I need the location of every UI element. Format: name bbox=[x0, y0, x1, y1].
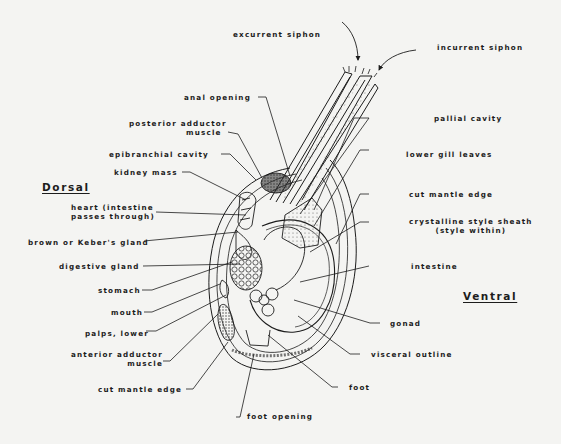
label-crystalline-style-sheath: crystalline style sheath (style within) bbox=[409, 217, 533, 235]
anterior-adductor-muscle bbox=[218, 304, 234, 340]
label-palps-lower: palps, lower bbox=[85, 329, 149, 338]
label-incurrent-siphon: incurrent siphon bbox=[437, 43, 523, 52]
label-lower-gill-leaves: lower gill leaves bbox=[406, 150, 492, 159]
label-intestine: intestine bbox=[411, 262, 458, 271]
label-gonad: gonad bbox=[390, 319, 421, 328]
label-brown-gland: brown or Keber's gland bbox=[28, 238, 149, 247]
label-heart-line2: passes through) bbox=[71, 212, 155, 221]
label-cut-mantle-edge-left: cut mantle edge bbox=[98, 385, 182, 394]
label-stomach: stomach bbox=[98, 286, 141, 295]
label-heart-line1: heart (intestine bbox=[71, 203, 155, 212]
dorsal-heading: Dorsal bbox=[42, 181, 90, 193]
label-pallial-cavity: pallial cavity bbox=[434, 114, 502, 123]
foot bbox=[246, 330, 270, 346]
label-crystalline-line1: crystalline style sheath bbox=[409, 217, 533, 226]
label-crystalline-line2: (style within) bbox=[409, 226, 533, 235]
label-anterior-adductor-line2: muscle bbox=[69, 359, 163, 368]
label-anterior-adductor: anterior adductor muscle bbox=[69, 350, 163, 368]
digestive-gland bbox=[230, 246, 262, 290]
excurrent-arrow bbox=[342, 22, 358, 60]
label-excurrent-siphon: excurrent siphon bbox=[233, 30, 321, 39]
label-epibranchial-cavity: epibranchial cavity bbox=[109, 150, 209, 159]
label-anal-opening: anal opening bbox=[184, 93, 251, 102]
label-posterior-adductor-line1: posterior adductor bbox=[129, 119, 227, 128]
label-mouth: mouth bbox=[111, 308, 143, 317]
label-heart: heart (intestine passes through) bbox=[71, 203, 155, 221]
diagram-canvas: Dorsal Ventral excurrent siphon incurren… bbox=[0, 0, 561, 444]
leader-lines bbox=[142, 97, 380, 417]
label-kidney-mass: kidney mass bbox=[114, 168, 178, 177]
label-visceral-outline: visceral outline bbox=[371, 350, 453, 359]
label-digestive-gland: digestive gland bbox=[59, 262, 140, 271]
label-foot: foot bbox=[349, 383, 370, 392]
incurrent-arrow bbox=[379, 50, 416, 70]
ventral-heading: Ventral bbox=[463, 290, 517, 302]
label-posterior-adductor: posterior adductor muscle bbox=[129, 119, 227, 137]
label-cut-mantle-edge-right: cut mantle edge bbox=[409, 190, 493, 199]
label-posterior-adductor-line2: muscle bbox=[129, 128, 227, 137]
label-anterior-adductor-line1: anterior adductor bbox=[69, 350, 163, 359]
label-foot-opening: foot opening bbox=[247, 412, 313, 421]
